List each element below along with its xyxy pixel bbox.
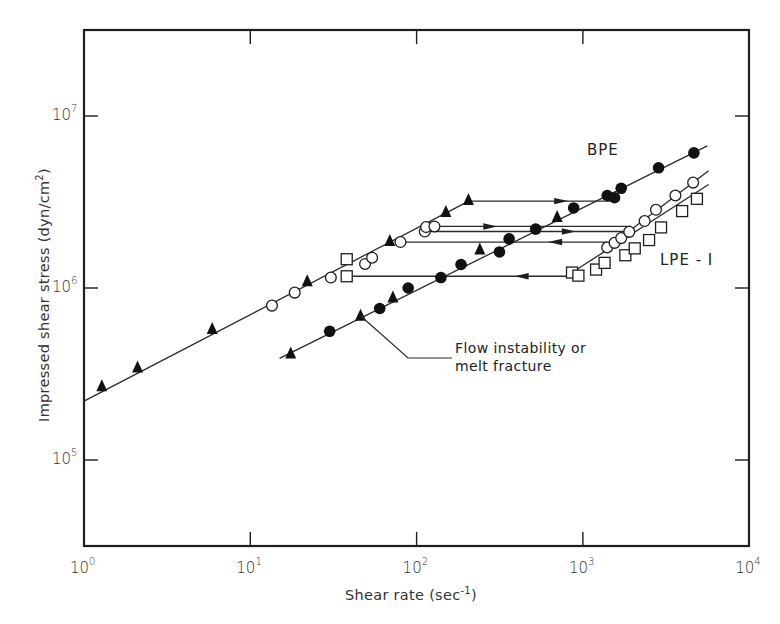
y-tick-exponent: 6 [71, 275, 77, 286]
x-tick-base: 10 [70, 559, 89, 577]
open-square-marker [656, 222, 667, 233]
y-tick-exponent: 7 [71, 103, 77, 114]
triangle-marker [552, 210, 563, 222]
annotation-leader-line [361, 316, 452, 358]
x-tick-label: 101 [236, 558, 261, 577]
series-label-bpe: BPE [587, 141, 619, 159]
arrow-right-icon [562, 228, 576, 234]
y-axis-title-text: Impressed shear stress (dyn/cm [36, 181, 52, 422]
axes-box [84, 30, 749, 546]
x-tick-base: 10 [236, 559, 255, 577]
x-tick-base: 10 [735, 559, 754, 577]
filled-circle-marker [402, 282, 414, 294]
y-tick-base: 10 [52, 278, 71, 296]
filled-circle-marker [653, 162, 665, 174]
x-tick-base: 10 [403, 559, 422, 577]
x-tick-exponent: 4 [754, 556, 760, 567]
filled-circle-marker [503, 233, 515, 245]
data-markers [96, 147, 702, 391]
open-circle-marker [639, 216, 650, 227]
triangle-marker [132, 361, 143, 373]
y-axis-title-sup: 2 [34, 174, 45, 181]
y-tick-exponent: 5 [71, 447, 77, 458]
annotation-text: Flow instability or melt fracture [455, 339, 586, 375]
filled-circle-marker [374, 303, 386, 315]
arrow-right-icon [554, 198, 568, 204]
fitted-line [280, 146, 708, 358]
filled-circle-marker [615, 182, 627, 194]
open-circle-marker [624, 226, 635, 237]
arrow-left-icon [548, 239, 562, 245]
x-axis-title-text: Shear rate (sec [345, 587, 460, 603]
x-tick-label: 103 [569, 558, 594, 577]
triangle-marker [96, 379, 107, 391]
x-axis-title: Shear rate (sec-1) [345, 585, 477, 603]
open-circle-marker [367, 252, 378, 263]
y-tick-base: 10 [52, 450, 71, 468]
triangle-marker [474, 243, 485, 255]
triangle-marker [207, 322, 218, 334]
open-square-marker [573, 270, 584, 281]
x-axis-title-close: ) [471, 587, 477, 603]
y-tick-label: 107 [52, 105, 77, 124]
open-circle-marker [395, 237, 406, 248]
open-circle-marker [429, 221, 440, 232]
filled-circle-marker [688, 147, 700, 159]
series-label-lpe1: LPE - I [660, 251, 713, 269]
triangle-marker [285, 347, 296, 359]
y-tick-label: 105 [52, 449, 77, 468]
filled-circle-marker [435, 272, 447, 284]
y-axis-title: Impressed shear stress (dyn/cm2) [34, 212, 52, 422]
open-square-marker [341, 271, 352, 282]
open-circle-marker [267, 300, 278, 311]
filled-circle-marker [568, 202, 580, 214]
open-square-marker [691, 193, 702, 204]
x-tick-exponent: 2 [422, 556, 428, 567]
filled-circle-marker [455, 259, 467, 271]
y-axis-title-close: ) [36, 168, 52, 174]
filled-circle-marker [324, 326, 336, 338]
fitted-lines [84, 146, 709, 401]
triangle-marker [463, 193, 474, 205]
x-tick-label: 100 [70, 558, 95, 577]
annotation-line-2: melt fracture [455, 357, 586, 375]
x-tick-exponent: 3 [588, 556, 594, 567]
leader-line [361, 316, 452, 358]
x-tick-label: 104 [735, 558, 760, 577]
plot-frame [84, 30, 749, 546]
arrow-right-icon [483, 223, 497, 229]
x-tick-base: 10 [569, 559, 588, 577]
chart-plot [0, 0, 780, 624]
x-axis-title-sup: -1 [460, 585, 471, 596]
x-tick-exponent: 0 [89, 556, 95, 567]
y-tick-base: 10 [52, 106, 71, 124]
annotation-line-1: Flow instability or [455, 339, 586, 357]
open-square-marker [677, 206, 688, 217]
triangle-marker [302, 274, 313, 286]
x-tick-label: 102 [403, 558, 428, 577]
arrow-left-icon [515, 273, 529, 279]
open-square-marker [599, 257, 610, 268]
open-square-marker [341, 254, 352, 265]
open-circle-marker [325, 272, 336, 283]
open-circle-marker [651, 204, 662, 215]
open-circle-marker [289, 287, 300, 298]
filled-circle-marker [609, 192, 621, 204]
open-circle-marker [688, 177, 699, 188]
y-tick-label: 106 [52, 277, 77, 296]
open-square-marker [644, 235, 655, 246]
triangle-marker [387, 290, 398, 302]
filled-circle-marker [530, 223, 542, 235]
open-square-marker [629, 243, 640, 254]
open-circle-marker [670, 190, 681, 201]
filled-circle-marker [494, 246, 506, 258]
x-tick-exponent: 1 [255, 556, 261, 567]
